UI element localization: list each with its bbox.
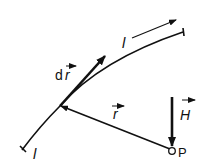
direction-arrow (132, 20, 176, 38)
label-line-element-d: d (55, 67, 63, 83)
biot-savart-diagram: l l d r r H P (0, 0, 212, 164)
label-position-vector: r (113, 106, 119, 122)
label-field: H (180, 107, 191, 123)
label-path-top: l (122, 34, 126, 51)
label-line-element-r: r (65, 67, 71, 83)
label-point-p: P (178, 145, 187, 160)
curve-end-tick (183, 28, 184, 36)
conductor-curve (22, 32, 183, 150)
label-path-bottom: l (33, 145, 37, 162)
point-p-marker (169, 148, 176, 155)
